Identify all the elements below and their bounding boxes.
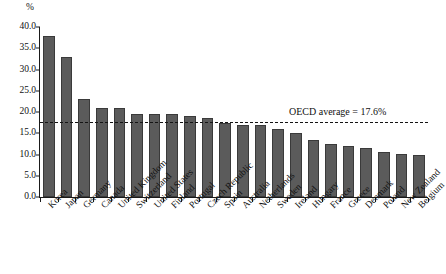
oecd-average-line (40, 122, 428, 123)
y-axis-tick-label: 35.0 (0, 44, 36, 54)
bar (43, 36, 55, 198)
y-axis-tick-label: 15.0 (0, 129, 36, 139)
y-axis-tick-label: 10.0 (0, 150, 36, 160)
bar (78, 99, 90, 197)
y-axis-tick-label: 30.0 (0, 65, 36, 75)
x-axis-tick-mark (40, 198, 41, 202)
bar (61, 57, 73, 197)
y-axis-tick-label: 0.0 (0, 192, 36, 202)
y-axis-tick-label: 5.0 (0, 171, 36, 181)
y-axis-unit-label: % (26, 2, 34, 12)
y-axis-line (39, 27, 40, 197)
oecd-average-label: OECD average = 17.6% (289, 106, 386, 117)
y-axis-tick-label: 20.0 (0, 107, 36, 117)
y-axis-tick-label: 25.0 (0, 86, 36, 96)
x-axis-line (39, 197, 428, 198)
y-axis-tick-label: 40.0 (0, 22, 36, 32)
